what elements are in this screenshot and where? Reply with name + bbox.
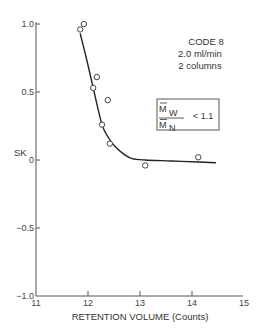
y-tick-label: 0.5 <box>21 87 34 97</box>
y-axis-label: SK <box>14 147 27 158</box>
data-point <box>196 155 201 160</box>
x-tick-label: 15 <box>239 298 249 308</box>
y-tick-label: 0 <box>29 155 34 165</box>
data-point <box>107 141 112 146</box>
ratio-box: M W M N < 1.1 <box>157 99 219 133</box>
annotation-flow: 2.0 ml/min <box>178 48 222 59</box>
y-tick-label: 1.0 <box>21 19 34 29</box>
data-point <box>99 122 104 127</box>
chart: 1.00.50−0.5−1.0 1112131415 SK RETENTION … <box>0 0 265 334</box>
annotation-columns: 2 columns <box>178 60 222 71</box>
data-point <box>91 85 96 90</box>
data-point <box>143 163 148 168</box>
x-tick-label: 13 <box>135 298 145 308</box>
x-tick-label: 14 <box>187 298 197 308</box>
x-axis-label: RETENTION VOLUME (Counts) <box>72 311 209 322</box>
y-tick-label: −0.5 <box>16 223 34 233</box>
data-point <box>81 21 86 26</box>
ratio-condition: < 1.1 <box>193 111 213 121</box>
annotation-code: CODE 8 <box>188 36 223 47</box>
ratio-numerator: M <box>159 104 167 114</box>
data-point <box>78 27 83 32</box>
ratio-denominator-sub: N <box>169 123 176 133</box>
x-tick-label: 12 <box>83 298 93 308</box>
ratio-numerator-sub: W <box>169 108 178 118</box>
data-point <box>105 97 110 102</box>
ratio-denominator: M <box>159 120 167 130</box>
x-tick-label: 11 <box>31 298 40 308</box>
data-point <box>94 74 99 79</box>
